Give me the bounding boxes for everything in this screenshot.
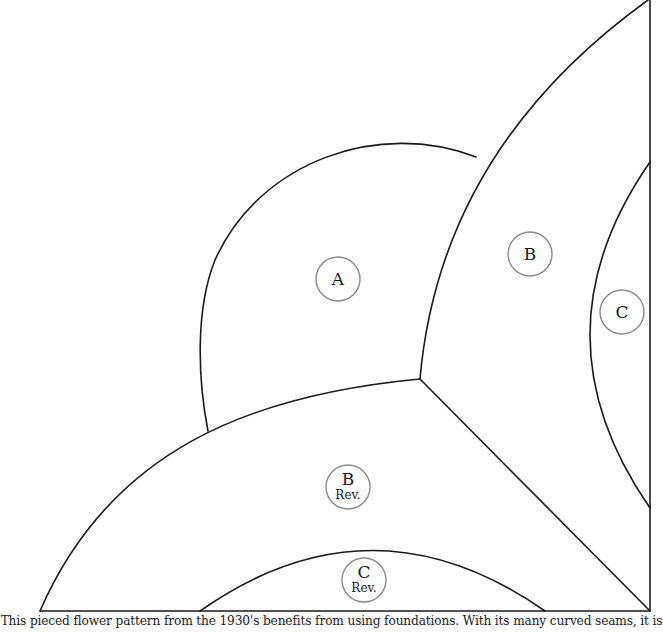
svg-text:C: C	[357, 562, 370, 582]
piece-label-c: C	[600, 290, 644, 334]
svg-text:Rev.: Rev.	[351, 581, 376, 595]
c-arc	[590, 162, 650, 508]
piece-label-b: B	[508, 232, 552, 276]
caption-text: This pieced flower pattern from the 1930…	[0, 614, 663, 628]
svg-text:B: B	[524, 244, 537, 264]
piece-label-a: A	[316, 257, 360, 301]
svg-text:Rev.: Rev.	[335, 488, 360, 502]
quilt-pattern-diagram: A B C B Rev. C Rev.	[0, 0, 663, 632]
svg-text:A: A	[331, 269, 345, 289]
svg-text:B: B	[342, 469, 355, 489]
svg-text:C: C	[615, 302, 628, 322]
piece-label-c-rev: C Rev.	[342, 558, 386, 602]
piece-label-b-rev: B Rev.	[326, 465, 370, 509]
diagonal-seam	[420, 379, 650, 611]
